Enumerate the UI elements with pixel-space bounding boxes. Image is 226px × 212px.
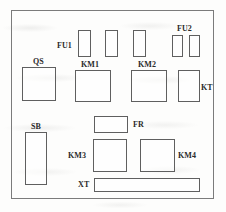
label-qs: QS: [33, 58, 44, 66]
label-km4: KM4: [178, 152, 196, 160]
component-km4-contactor[interactable]: [140, 139, 175, 172]
component-fr-relay[interactable]: [94, 116, 128, 133]
label-fu2: FU2: [177, 25, 192, 33]
label-fr: FR: [133, 121, 144, 129]
label-fu1: FU1: [57, 42, 72, 50]
control-panel-layout-diagram: FU1FU2QSKM1KM2KTSBFRKM3KM4XT: [0, 0, 226, 212]
component-qs-switch[interactable]: [22, 67, 56, 101]
component-fu2-fuse-1[interactable]: [172, 35, 183, 57]
component-fu1-fuse-1[interactable]: [78, 30, 91, 57]
component-fu1-fuse-3[interactable]: [133, 30, 146, 57]
component-km2-contactor[interactable]: [131, 70, 167, 102]
component-xt-terminal[interactable]: [94, 178, 200, 192]
label-km3: KM3: [68, 152, 86, 160]
label-kt: KT: [201, 84, 213, 92]
label-km2: KM2: [138, 61, 156, 69]
component-kt-timer[interactable]: [178, 70, 200, 102]
component-fu1-fuse-2[interactable]: [105, 30, 118, 57]
component-km3-contactor[interactable]: [93, 139, 127, 172]
label-km1: KM1: [81, 61, 99, 69]
component-fu2-fuse-2[interactable]: [189, 35, 200, 57]
component-km1-contactor[interactable]: [75, 70, 111, 102]
label-xt: XT: [78, 181, 89, 189]
label-sb: SB: [31, 123, 41, 131]
component-sb-button[interactable]: [25, 132, 47, 185]
